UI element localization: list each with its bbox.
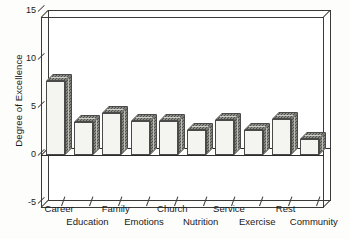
x-tickmark — [146, 196, 150, 206]
x-label-emotions: Emotions — [124, 216, 164, 227]
x-label-exercise: Exercise — [239, 216, 275, 227]
x-tickmark — [89, 196, 93, 206]
x-label-church: Church — [157, 203, 188, 214]
x-tickmark — [316, 196, 320, 206]
x-tickmark — [259, 196, 263, 206]
x-label-career: Career — [45, 203, 74, 214]
x-tickmark — [203, 196, 207, 206]
x-label-nutrition: Nutrition — [183, 216, 218, 227]
x-label-service: Service — [213, 203, 245, 214]
x-label-education: Education — [66, 216, 108, 227]
x-label-community: Community — [290, 216, 338, 227]
x-label-family: Family — [102, 203, 130, 214]
x-label-rest: Rest — [276, 203, 296, 214]
x-axis-labels: CareerEducationFamilyEmotionsChurchNutri… — [0, 0, 349, 239]
bar-chart: Degree of Excellence 151050-5 CareerEduc… — [0, 0, 349, 239]
